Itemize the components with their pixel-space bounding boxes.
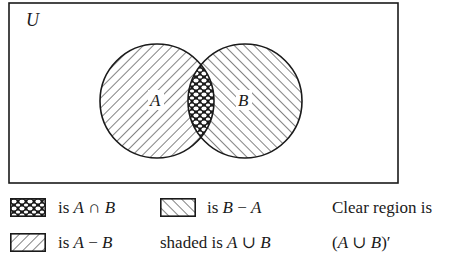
legend-clear-region-line1: Clear region is (332, 198, 432, 218)
b-minus-a-swatch-icon (160, 198, 196, 217)
intersection-swatch-icon (10, 198, 46, 217)
set-b-label: B (238, 91, 248, 111)
legend-b-minus-a-text: is B − A (207, 198, 261, 218)
legend-intersection-text: is A ∩ B (58, 198, 115, 218)
a-minus-b-swatch-icon (10, 233, 46, 252)
legend-a-minus-b-text: is A − B (58, 233, 112, 253)
legend-shaded-text: shaded is A ∪ B (160, 233, 271, 253)
set-a-label: A (150, 91, 160, 111)
legend-clear-region-line2: (A ∪ B)′ (332, 233, 391, 253)
universe-label: U (26, 10, 39, 30)
